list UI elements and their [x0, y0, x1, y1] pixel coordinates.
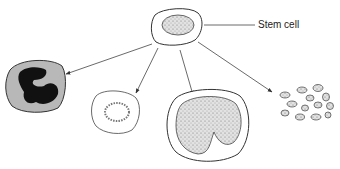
stem-cell — [151, 9, 202, 46]
platelets — [280, 85, 334, 121]
arrow-to-granulocyte — [66, 44, 152, 74]
arrow-to-large-cell — [180, 50, 193, 95]
arrow-to-small-cell — [136, 48, 158, 93]
stem-cell-label: Stem cell — [258, 19, 299, 30]
large-cell — [167, 89, 249, 161]
differentiation-arrows — [66, 42, 272, 95]
small-cell — [92, 91, 140, 134]
arrow-to-platelets — [198, 42, 272, 92]
granulocyte — [6, 60, 66, 112]
